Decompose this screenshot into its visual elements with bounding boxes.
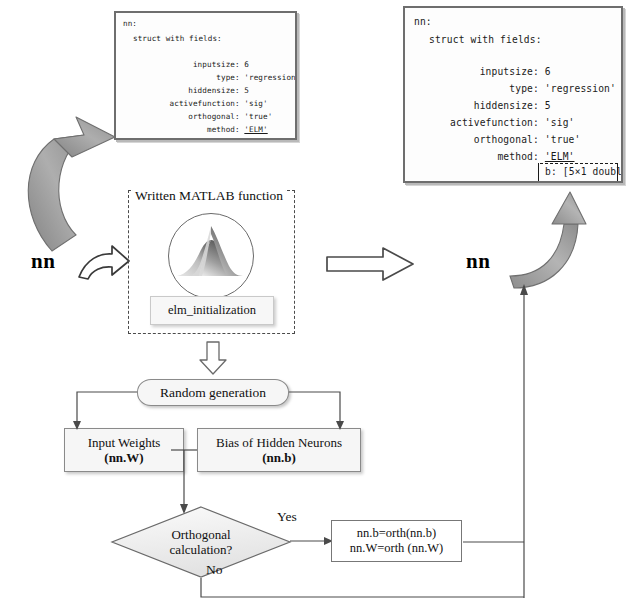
feedback-rail-connectors: [196, 540, 536, 602]
console-left-val-type: 'regression': [244, 73, 297, 82]
return-rail-to-nn: [518, 282, 532, 600]
console-right-key-type: type: [405, 83, 533, 95]
console-left-key-inputsize: inputsize: [116, 60, 235, 69]
console-left-val-method: 'ELM': [244, 125, 267, 134]
orth-line1: nn.b=orth(nn.b): [357, 526, 436, 541]
console-left-subheader: struct with fields:: [128, 34, 295, 43]
console-left-key-orthogonal: orthogonal: [116, 112, 235, 121]
nn-input-label: nn: [31, 249, 55, 274]
console-left-key-hiddensize: hiddensize: [116, 86, 235, 95]
curved-gray-arrow-up-left-icon: [14, 123, 134, 253]
console-left-key-activefunction: activefunction: [116, 99, 235, 108]
console-left-val-orthogonal: 'true': [244, 112, 272, 121]
console-right-key-b: b: [405, 166, 551, 178]
elm-initialization-function-chip[interactable]: elm_initialization: [150, 296, 274, 325]
console-left-colon-1: :: [235, 73, 244, 82]
console-right-key-method: method: [405, 151, 533, 163]
console-left-val-inputsize: 6: [244, 60, 249, 69]
console-left-colon-4: :: [235, 112, 244, 121]
nn-struct-before-panel: nn: struct with fields: inputsize: 6 typ…: [114, 11, 297, 140]
elm-initialization-label: elm_initialization: [168, 303, 256, 318]
console-right-key-activefunction: activefunction: [405, 117, 533, 129]
curved-gray-arrow-up-right-icon: [508, 178, 594, 288]
console-right-val-hiddensize: 5: [545, 100, 551, 111]
console-right-key-inputsize: inputsize: [405, 66, 533, 78]
console-right-val-method: 'ELM': [545, 151, 575, 162]
console-right-colon-b: :: [551, 166, 563, 177]
console-left-header: nn:: [118, 19, 295, 28]
console-right-colon-3: :: [533, 117, 545, 128]
yes-edge-label: Yes: [277, 509, 297, 525]
console-right-header: nn:: [408, 16, 621, 28]
console-left-val-hiddensize: 5: [244, 86, 249, 95]
white-block-arrow-right-large-icon: [325, 246, 417, 282]
console-left-colon-0: :: [235, 60, 244, 69]
console-right-colon-4: :: [533, 134, 545, 145]
console-right-val-activefunction: 'sig': [545, 117, 575, 128]
matlab-membrane-logo-icon: [168, 213, 254, 299]
console-right-key-orthogonal: orthogonal: [405, 134, 533, 146]
random-generation-connectors: [60, 378, 380, 434]
console-right-val-orthogonal: 'true': [545, 134, 581, 145]
console-left-key-type: type: [116, 73, 235, 82]
diagram-canvas: nn: struct with fields: inputsize: 6 typ…: [0, 0, 639, 607]
nn-output-label: nn: [466, 249, 490, 274]
console-right-val-inputsize: 6: [545, 66, 551, 77]
white-block-arrow-right-icon: [76, 243, 132, 285]
console-right-val-b: [5×1 double]: [563, 166, 623, 177]
console-right-key-hiddensize: hiddensize: [405, 100, 533, 112]
console-left-val-activefunction: 'sig': [244, 99, 267, 108]
highlight-dash-top: [540, 163, 618, 164]
console-right-val-type: 'regression': [545, 83, 616, 94]
console-left-colon-5: :: [235, 125, 244, 134]
console-right-colon-0: :: [533, 66, 545, 77]
console-left-colon-3: :: [235, 99, 244, 108]
console-right-subheader: struct with fields:: [423, 34, 621, 46]
console-right-colon-2: :: [533, 100, 545, 111]
written-matlab-function-label: Written MATLAB function: [133, 188, 285, 204]
white-block-arrow-down-icon: [198, 340, 228, 376]
nn-struct-after-panel: nn: struct with fields: inputsize: 6 typ…: [403, 6, 623, 183]
console-right-colon-1: :: [533, 83, 545, 94]
console-right-colon-5: :: [533, 151, 545, 162]
console-left-colon-2: :: [235, 86, 244, 95]
